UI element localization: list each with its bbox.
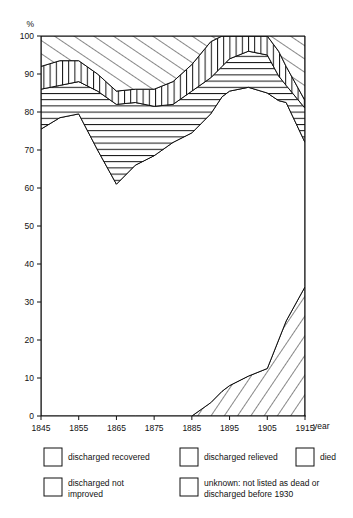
y-tick-label: 30 xyxy=(25,297,35,307)
legend-label: improved xyxy=(68,489,103,499)
x-tick-label: 1845 xyxy=(32,423,51,433)
x-tick-label: 1895 xyxy=(220,423,239,433)
y-tick-label: 40 xyxy=(25,259,35,269)
legend-swatch-vertical xyxy=(180,448,198,466)
legend-label: discharged relieved xyxy=(204,452,278,462)
legend-swatch-horizontal xyxy=(44,478,62,496)
legend-swatch-blank xyxy=(296,448,314,466)
y-tick-label: 70 xyxy=(25,145,35,155)
y-axis-unit-label: % xyxy=(26,19,34,29)
x-axis-name-label: year xyxy=(313,421,330,431)
y-tick-label: 100 xyxy=(20,31,34,41)
stacked-area-chart: 0102030405060708090100 18451855186518751… xyxy=(0,0,353,518)
chart-container: 0102030405060708090100 18451855186518751… xyxy=(0,0,353,518)
legend-label: died xyxy=(320,452,336,462)
x-tick-label: 1875 xyxy=(145,423,164,433)
y-tick-label: 50 xyxy=(25,221,35,231)
legend-label: discharged recovered xyxy=(68,452,150,462)
legend-swatch-diagonal-slash xyxy=(44,448,62,466)
legend-label: discharged before 1930 xyxy=(204,489,294,499)
legend-label: discharged not xyxy=(68,478,124,488)
x-tick-label: 1855 xyxy=(69,423,88,433)
x-tick-label: 1915 xyxy=(296,423,315,433)
x-tick-label: 1865 xyxy=(107,423,126,433)
stacked-bands xyxy=(41,36,305,416)
y-tick-label: 80 xyxy=(25,107,35,117)
y-tick-label: 10 xyxy=(25,373,35,383)
x-tick-label: 1905 xyxy=(258,423,277,433)
y-tick-label: 90 xyxy=(25,69,35,79)
legend-label: unknown: not listed as dead or xyxy=(204,478,319,488)
y-tick-label: 0 xyxy=(29,411,34,421)
x-tick-label: 1885 xyxy=(182,423,201,433)
y-tick-label: 60 xyxy=(25,183,35,193)
legend-swatch-diagonal-backslash xyxy=(180,478,198,496)
y-tick-label: 20 xyxy=(25,335,35,345)
